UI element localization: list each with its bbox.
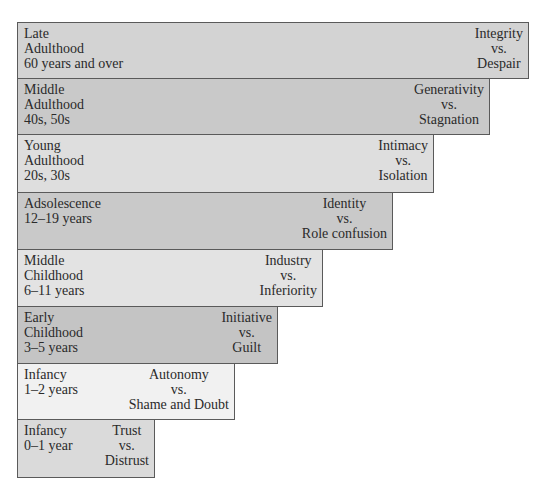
- stage-box: YoungAdulthood20s, 30sIntimacyvs.Isolati…: [17, 134, 434, 193]
- age-line: 20s, 30s: [24, 168, 84, 183]
- age-line: Infancy: [24, 423, 73, 438]
- stage-age-label: LateAdulthood60 years and over: [24, 26, 123, 71]
- stage-box: MiddleAdulthood40s, 50sGenerativityvs.St…: [17, 78, 490, 135]
- age-line: 60 years and over: [24, 56, 123, 71]
- stage-crisis-label: Integrityvs.Despair: [475, 26, 523, 71]
- crisis-negative: Despair: [475, 56, 523, 71]
- crisis-negative: Shame and Doubt: [129, 397, 229, 412]
- stage-box: Infancy1–2 yearsAutonomyvs.Shame and Dou…: [17, 363, 235, 420]
- crisis-positive: Industry: [259, 253, 317, 268]
- stage-crisis-label: Intimacyvs.Isolation: [378, 138, 428, 183]
- crisis-vs: vs.: [129, 382, 229, 397]
- age-line: Adsolescence: [24, 196, 101, 211]
- stage-box: MiddleChildhood6–11 yearsIndustryvs.Infe…: [17, 249, 323, 307]
- stage-box: Adsolescence12–19 yearsIdentityvs.Role c…: [17, 192, 393, 250]
- stage-age-label: Infancy1–2 years: [24, 367, 78, 397]
- stage-age-label: YoungAdulthood20s, 30s: [24, 138, 84, 183]
- crisis-negative: Inferiority: [259, 283, 317, 298]
- crisis-negative: Distrust: [105, 453, 149, 468]
- crisis-negative: Role confusion: [302, 226, 387, 241]
- age-line: Adulthood: [24, 97, 84, 112]
- age-line: Middle: [24, 253, 85, 268]
- erikson-stages-diagram: LateAdulthood60 years and overIntegrityv…: [0, 0, 549, 495]
- stage-crisis-label: Industryvs.Inferiority: [259, 253, 317, 298]
- crisis-negative: Isolation: [378, 168, 428, 183]
- age-line: 12–19 years: [24, 211, 101, 226]
- stage-crisis-label: Identityvs.Role confusion: [302, 196, 387, 241]
- stage-crisis-label: Initiativevs.Guilt: [221, 310, 272, 355]
- age-line: 3–5 years: [24, 340, 83, 355]
- stage-crisis-label: Generativityvs.Stagnation: [414, 82, 484, 127]
- crisis-vs: vs.: [221, 325, 272, 340]
- stage-age-label: Adsolescence12–19 years: [24, 196, 101, 226]
- stage-age-label: EarlyChildhood3–5 years: [24, 310, 83, 355]
- crisis-positive: Initiative: [221, 310, 272, 325]
- crisis-vs: vs.: [475, 41, 523, 56]
- crisis-positive: Integrity: [475, 26, 523, 41]
- age-line: 6–11 years: [24, 283, 85, 298]
- age-line: Adulthood: [24, 153, 84, 168]
- crisis-vs: vs.: [414, 97, 484, 112]
- crisis-vs: vs.: [302, 211, 387, 226]
- stage-crisis-label: Trustvs.Distrust: [105, 423, 149, 468]
- stage-box: LateAdulthood60 years and overIntegrityv…: [17, 22, 529, 79]
- age-line: 0–1 year: [24, 438, 73, 453]
- crisis-negative: Stagnation: [414, 112, 484, 127]
- crisis-vs: vs.: [105, 438, 149, 453]
- stage-crisis-label: Autonomyvs.Shame and Doubt: [129, 367, 229, 412]
- age-line: Adulthood: [24, 41, 123, 56]
- age-line: Young: [24, 138, 84, 153]
- stage-age-label: MiddleAdulthood40s, 50s: [24, 82, 84, 127]
- crisis-positive: Intimacy: [378, 138, 428, 153]
- stage-box: EarlyChildhood3–5 yearsInitiativevs.Guil…: [17, 306, 278, 364]
- age-line: Middle: [24, 82, 84, 97]
- age-line: Infancy: [24, 367, 78, 382]
- crisis-negative: Guilt: [221, 340, 272, 355]
- age-line: Childhood: [24, 268, 85, 283]
- age-line: Late: [24, 26, 123, 41]
- crisis-positive: Trust: [105, 423, 149, 438]
- crisis-positive: Identity: [302, 196, 387, 211]
- crisis-positive: Generativity: [414, 82, 484, 97]
- age-line: 1–2 years: [24, 382, 78, 397]
- stage-box: Infancy0–1 yearTrustvs.Distrust: [17, 419, 155, 478]
- crisis-vs: vs.: [378, 153, 428, 168]
- age-line: Early: [24, 310, 83, 325]
- crisis-positive: Autonomy: [129, 367, 229, 382]
- age-line: Childhood: [24, 325, 83, 340]
- crisis-vs: vs.: [259, 268, 317, 283]
- stage-age-label: Infancy0–1 year: [24, 423, 73, 453]
- age-line: 40s, 50s: [24, 112, 84, 127]
- stage-age-label: MiddleChildhood6–11 years: [24, 253, 85, 298]
